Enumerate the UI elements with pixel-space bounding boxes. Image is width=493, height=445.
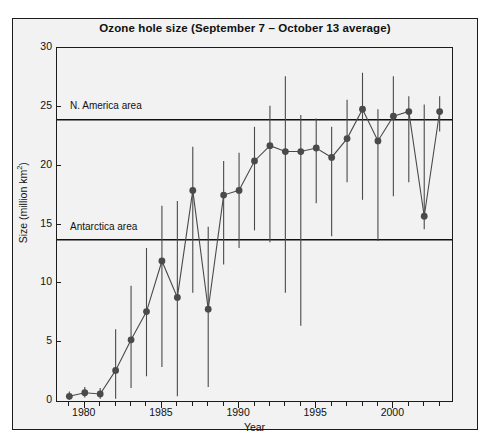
- chart-title: Ozone hole size (September 7 – October 1…: [12, 22, 478, 34]
- y-axis-title: Size (million km2): [15, 118, 29, 288]
- y-axis-tick-mark: [56, 106, 61, 107]
- data-point-marker: [189, 187, 196, 194]
- x-axis-minor-tick-mark: [145, 402, 146, 406]
- x-axis-minor-tick-mark: [254, 402, 255, 406]
- data-point-marker: [112, 367, 119, 374]
- data-point-marker: [159, 258, 166, 265]
- x-axis-minor-tick-mark: [300, 402, 301, 406]
- y-axis-tick-label: 30: [28, 41, 52, 51]
- x-axis-tick-mark: [161, 402, 162, 408]
- x-axis-minor-tick-mark: [362, 402, 363, 406]
- x-axis-minor-tick-mark: [377, 402, 378, 406]
- reference-line-label-antarctica: Antarctica area: [70, 221, 137, 232]
- y-axis-title-close: ): [17, 162, 29, 166]
- data-point-marker: [421, 213, 428, 220]
- x-axis-minor-tick-mark: [207, 402, 208, 406]
- y-axis-tick-label: 0: [28, 394, 52, 404]
- data-point-marker: [313, 145, 320, 152]
- data-point-marker: [297, 148, 304, 155]
- x-axis-minor-tick-mark: [68, 402, 69, 406]
- y-axis-tick-mark: [56, 165, 61, 166]
- x-axis-title: Year: [56, 421, 453, 433]
- errorbars-group: [69, 73, 439, 400]
- data-point-marker: [97, 391, 104, 398]
- data-point-marker: [205, 306, 212, 313]
- x-axis-minor-tick-mark: [331, 402, 332, 406]
- data-point-marker: [251, 158, 258, 165]
- x-axis-minor-tick-mark: [99, 402, 100, 406]
- x-axis-minor-tick-mark: [223, 402, 224, 406]
- y-axis-tick-label: 15: [28, 218, 52, 228]
- data-point-marker: [436, 108, 443, 115]
- x-axis-minor-tick-mark: [269, 402, 270, 406]
- y-axis-tick-mark: [56, 341, 61, 342]
- data-point-marker: [128, 336, 135, 343]
- x-axis-minor-tick-mark: [192, 402, 193, 406]
- data-point-marker: [174, 294, 181, 301]
- x-axis-minor-tick-mark: [346, 402, 347, 406]
- data-point-marker: [328, 154, 335, 161]
- data-point-marker: [66, 393, 73, 400]
- x-axis-minor-tick-mark: [130, 402, 131, 406]
- x-axis-tick-mark: [238, 402, 239, 408]
- data-point-marker: [143, 308, 150, 315]
- data-point-marker: [390, 113, 397, 120]
- x-axis-tick-mark: [315, 402, 316, 408]
- data-point-marker: [405, 108, 412, 115]
- x-axis-minor-tick-mark: [408, 402, 409, 406]
- y-axis-tick-label: 5: [28, 335, 52, 345]
- x-axis-minor-tick-mark: [176, 402, 177, 406]
- data-point-marker: [81, 389, 88, 396]
- x-axis-tick-labels: 19801985199019952000: [0, 406, 493, 422]
- data-point-marker: [344, 135, 351, 142]
- y-axis-title-base: Size (million km: [17, 170, 29, 244]
- figure-root: Ozone hole size (September 7 – October 1…: [0, 0, 493, 445]
- data-point-marker: [267, 142, 274, 149]
- y-axis-tick-label: 10: [28, 276, 52, 286]
- x-axis-minor-tick-mark: [423, 402, 424, 406]
- reference-line-label-north-america: N. America area: [70, 100, 142, 111]
- y-axis-tick-label: 25: [28, 100, 52, 110]
- data-point-marker: [359, 106, 366, 113]
- x-axis-tick-mark: [392, 402, 393, 408]
- y-axis-tick-mark: [56, 282, 61, 283]
- x-axis-minor-tick-mark: [284, 402, 285, 406]
- data-point-marker: [236, 187, 243, 194]
- y-axis-tick-label: 20: [28, 159, 52, 169]
- x-axis-minor-tick-mark: [439, 402, 440, 406]
- y-axis-tick-mark: [56, 224, 61, 225]
- x-axis-tick-mark: [84, 402, 85, 408]
- data-point-marker: [220, 192, 227, 199]
- data-point-marker: [282, 148, 289, 155]
- y-axis-title-exponent: 2: [15, 166, 24, 170]
- data-point-marker: [375, 138, 382, 145]
- x-axis-minor-tick-mark: [115, 402, 116, 406]
